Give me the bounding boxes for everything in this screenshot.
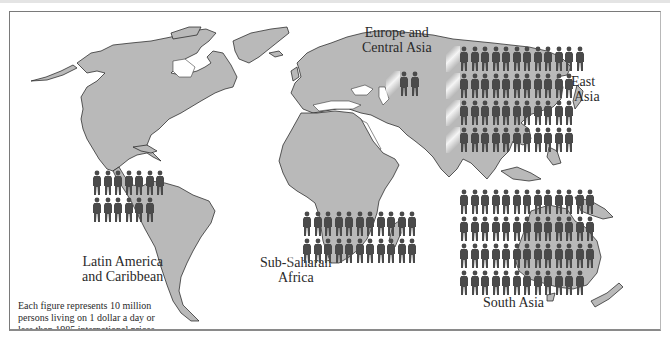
person-figure-icon bbox=[512, 73, 522, 100]
person-figure-icon bbox=[323, 238, 333, 265]
person-figure-icon bbox=[399, 71, 409, 98]
person-figure-icon bbox=[323, 211, 333, 238]
person-figure-icon bbox=[533, 73, 543, 100]
person-figure-icon bbox=[491, 127, 501, 154]
person-figure-icon bbox=[386, 238, 396, 265]
pictogram-row bbox=[459, 243, 596, 270]
pictogram-row bbox=[92, 197, 166, 224]
person-figure-icon bbox=[459, 189, 469, 216]
person-figure-icon bbox=[113, 170, 123, 197]
person-figure-icon bbox=[554, 127, 564, 154]
person-figure-icon bbox=[407, 238, 417, 265]
person-figure-icon bbox=[480, 270, 490, 297]
person-figure-icon bbox=[313, 211, 323, 238]
figure-shadow bbox=[79, 170, 93, 196]
person-figure-icon bbox=[355, 211, 365, 238]
pictogram-row bbox=[302, 211, 418, 238]
person-figure-icon bbox=[512, 189, 522, 216]
person-figure-icon bbox=[134, 170, 144, 197]
person-figure-icon bbox=[376, 238, 386, 265]
person-figure-icon bbox=[554, 216, 564, 243]
person-figure-icon bbox=[501, 100, 511, 127]
person-figure-icon bbox=[543, 73, 553, 100]
figure-shadow bbox=[446, 270, 460, 296]
person-figure-icon bbox=[501, 73, 511, 100]
person-figure-icon bbox=[124, 197, 134, 224]
figure-shadow bbox=[446, 127, 460, 153]
person-figure-icon bbox=[575, 243, 585, 270]
person-figure-icon bbox=[459, 216, 469, 243]
person-figure-icon bbox=[470, 189, 480, 216]
person-figure-icon bbox=[522, 73, 532, 100]
person-figure-icon bbox=[459, 270, 469, 297]
person-figure-icon bbox=[491, 216, 501, 243]
person-figure-icon bbox=[302, 238, 312, 265]
person-figure-icon bbox=[564, 46, 574, 73]
person-figure-icon bbox=[103, 197, 113, 224]
label-line: Africa bbox=[260, 270, 332, 285]
person-figure-icon bbox=[501, 127, 511, 154]
label-line: and Caribbean bbox=[82, 269, 163, 284]
person-figure-icon bbox=[459, 73, 469, 100]
person-figure-icon bbox=[501, 189, 511, 216]
pictogram-sub-saharan-africa bbox=[302, 211, 418, 265]
person-figure-icon bbox=[334, 238, 344, 265]
person-figure-icon bbox=[575, 46, 585, 73]
person-figure-icon bbox=[459, 127, 469, 154]
person-figure-icon bbox=[564, 189, 574, 216]
person-figure-icon bbox=[512, 100, 522, 127]
pictogram-row bbox=[459, 189, 596, 216]
pictogram-latin-america bbox=[92, 170, 166, 224]
pictogram-row bbox=[459, 73, 585, 100]
person-figure-icon bbox=[480, 243, 490, 270]
person-figure-icon bbox=[543, 189, 553, 216]
person-figure-icon bbox=[313, 238, 323, 265]
person-figure-icon bbox=[522, 216, 532, 243]
figure-shadow bbox=[386, 71, 400, 97]
person-figure-icon bbox=[522, 270, 532, 297]
figure-shadow bbox=[446, 216, 460, 242]
person-figure-icon bbox=[365, 211, 375, 238]
aleutian-islands bbox=[31, 65, 77, 81]
person-figure-icon bbox=[480, 127, 490, 154]
footnote: Each figure represents 10 million person… bbox=[18, 300, 157, 331]
person-figure-icon bbox=[564, 270, 574, 297]
person-figure-icon bbox=[344, 238, 354, 265]
figure-shadow bbox=[446, 73, 460, 99]
pictogram-row bbox=[459, 127, 585, 154]
person-figure-icon bbox=[480, 46, 490, 73]
person-figure-icon bbox=[124, 170, 134, 197]
label-line: Europe and bbox=[362, 25, 432, 40]
figure-shadow bbox=[446, 189, 460, 215]
person-figure-icon bbox=[491, 189, 501, 216]
figure-shadow bbox=[79, 197, 93, 223]
person-figure-icon bbox=[564, 243, 574, 270]
label-line: Central Asia bbox=[362, 40, 432, 55]
person-figure-icon bbox=[410, 71, 420, 98]
person-figure-icon bbox=[491, 270, 501, 297]
greenland bbox=[233, 27, 289, 63]
person-figure-icon bbox=[533, 189, 543, 216]
person-figure-icon bbox=[491, 73, 501, 100]
person-figure-icon bbox=[564, 127, 574, 154]
map-frame: Europe and Central Asia East Asia Latin … bbox=[9, 11, 661, 331]
pictogram-row bbox=[92, 170, 166, 197]
person-figure-icon bbox=[554, 189, 564, 216]
new-zealand bbox=[591, 283, 623, 307]
person-figure-icon bbox=[397, 211, 407, 238]
person-figure-icon bbox=[533, 270, 543, 297]
person-figure-icon bbox=[512, 127, 522, 154]
person-figure-icon bbox=[554, 73, 564, 100]
person-figure-icon bbox=[334, 211, 344, 238]
person-figure-icon bbox=[522, 46, 532, 73]
person-figure-icon bbox=[533, 216, 543, 243]
person-figure-icon bbox=[543, 46, 553, 73]
person-figure-icon bbox=[480, 100, 490, 127]
person-figure-icon bbox=[533, 243, 543, 270]
person-figure-icon bbox=[501, 216, 511, 243]
figure-shadow bbox=[446, 243, 460, 269]
britain bbox=[291, 67, 299, 81]
person-figure-icon bbox=[575, 189, 585, 216]
north-america bbox=[77, 29, 237, 171]
person-figure-icon bbox=[155, 170, 165, 197]
